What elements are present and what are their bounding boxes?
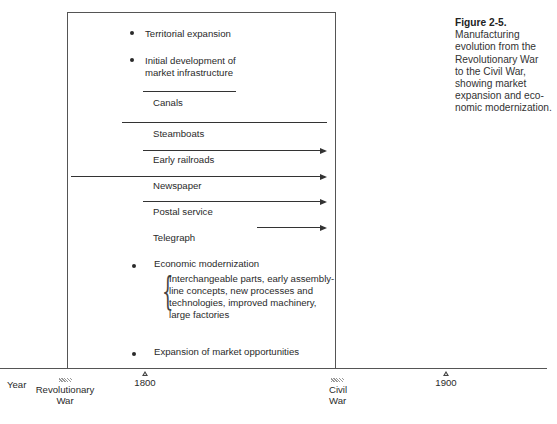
revolutionary-war-label-line1: Revolutionary	[30, 384, 100, 395]
telegraph-label: Telegraph	[153, 232, 195, 245]
bullet-icon	[132, 264, 136, 268]
bullet-icon	[132, 352, 136, 356]
newspaper-label: Newspaper	[153, 180, 202, 193]
territorial-expansion-label: Territorial expansion	[145, 28, 231, 41]
modernization-detail-line4: large factories	[169, 309, 229, 322]
caption-line: Manufacturing	[455, 29, 520, 40]
tick-marker-icon	[443, 371, 449, 376]
telegraph-arrow	[257, 227, 325, 228]
early-railroads-label: Early railroads	[153, 154, 214, 167]
early-railroads-arrow	[71, 176, 325, 177]
revolutionary-war-label-line2: War	[30, 395, 100, 406]
caption-line: evolution from the	[455, 41, 536, 52]
expansion-market-opportunities-label: Expansion of market opportunities	[154, 346, 299, 359]
civil-war-label-line2: War	[329, 395, 346, 408]
tick-label-1900: 1900	[430, 377, 462, 388]
timeline-axis	[0, 368, 547, 369]
canals-label: Canals	[153, 97, 183, 110]
infrastructure-label-line1: Initial development of	[145, 55, 236, 68]
canals-period-line	[143, 91, 236, 92]
modernization-detail-line3: technologies, improved machinery,	[169, 297, 317, 310]
civil-war-marker	[331, 378, 344, 382]
postal-service-label: Postal service	[153, 206, 213, 219]
infrastructure-label-line2: market infrastructure	[145, 67, 233, 80]
caption-line: nomic modernization.	[455, 102, 552, 113]
caption-line: expansion and eco-	[455, 90, 544, 101]
modernization-detail-line2: line concepts, new processes and	[169, 285, 313, 298]
caption-line: showing market	[455, 78, 526, 89]
caption-line: Revolutionary War	[455, 54, 538, 65]
revolutionary-war-marker	[59, 378, 72, 382]
bullet-icon	[130, 31, 134, 35]
figure-caption: Figure 2-5. Manufacturing evolution from…	[455, 17, 557, 115]
tick-marker-icon	[142, 371, 148, 376]
steamboats-label: Steamboats	[153, 128, 204, 141]
tick-label-1800: 1800	[129, 377, 161, 388]
bullet-icon	[130, 58, 134, 62]
year-axis-label: Year	[7, 379, 26, 392]
canals-end-divider-line	[122, 122, 327, 123]
newspaper-arrow	[143, 201, 325, 202]
steamboats-arrow	[143, 150, 325, 151]
figure-number: Figure 2-5.	[455, 17, 507, 28]
caption-line: to the Civil War,	[455, 66, 526, 77]
modernization-detail-line1: Interchangeable parts, early assembly-	[169, 273, 334, 286]
